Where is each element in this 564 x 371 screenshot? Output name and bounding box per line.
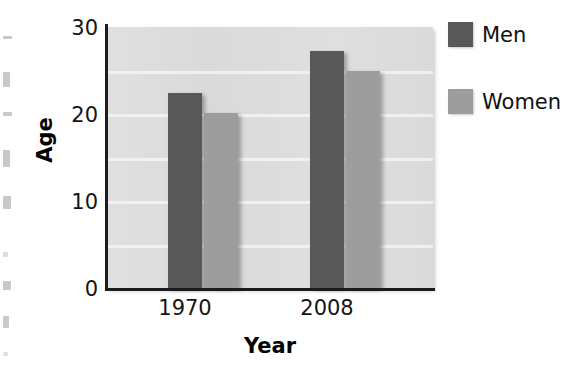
gridline — [107, 158, 433, 161]
y-axis-line — [105, 24, 108, 291]
legend-label-women: Women — [482, 90, 561, 114]
y-tick-label-30: 30 — [58, 16, 98, 40]
y-tick-label-20: 20 — [58, 103, 98, 127]
x-tick-label-1970: 1970 — [140, 296, 230, 320]
x-axis-title: Year — [185, 334, 355, 358]
x-tick-label-2008: 2008 — [282, 296, 372, 320]
legend-label-men: Men — [482, 23, 526, 47]
bar-1970-men — [168, 93, 202, 288]
legend-swatch-men — [448, 22, 473, 47]
bar-chart-figure: 30 20 10 0 1970 2008 Age Year Men Women — [0, 0, 564, 371]
bar-2008-men — [310, 51, 344, 288]
y-axis-title: Age — [33, 117, 57, 163]
x-axis-line — [105, 288, 435, 291]
plot-area — [107, 27, 433, 288]
gridline — [107, 114, 433, 117]
bar-1970-women — [204, 113, 238, 288]
gridline — [107, 201, 433, 204]
legend-item-men: Men — [448, 22, 526, 47]
bar-2008-women — [346, 71, 380, 289]
gridline — [107, 245, 433, 248]
legend-item-women: Women — [448, 89, 561, 114]
y-tick-label-10: 10 — [58, 190, 98, 214]
gridlines — [107, 27, 433, 288]
legend-swatch-women — [448, 89, 473, 114]
y-tick-label-0: 0 — [58, 277, 98, 301]
gridline — [107, 71, 433, 74]
